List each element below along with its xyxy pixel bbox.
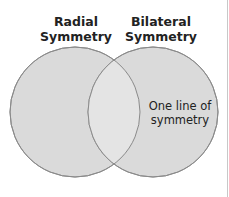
bilateral-label-line1: Bilateral bbox=[115, 14, 207, 29]
bilateral-only-text: One line of symmetry bbox=[142, 99, 218, 127]
bilateral-only-line1: One line of bbox=[142, 99, 218, 113]
radial-label-line1: Radial bbox=[30, 14, 122, 29]
bilateral-label-line2: Symmetry bbox=[115, 29, 207, 44]
bilateral-label: Bilateral Symmetry bbox=[115, 14, 207, 44]
radial-label: Radial Symmetry bbox=[30, 14, 122, 44]
bilateral-only-line2: symmetry bbox=[142, 113, 218, 127]
radial-label-line2: Symmetry bbox=[30, 29, 122, 44]
